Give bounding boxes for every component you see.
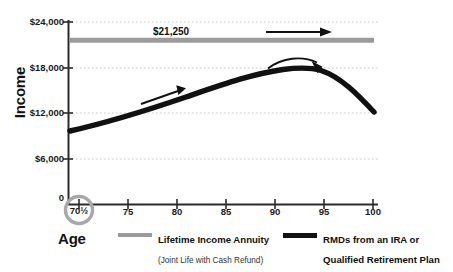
y-tick-label-6000: $6,000 [35, 153, 64, 164]
x-tick-label-100: 100 [357, 206, 389, 217]
x-tick-label-85: 85 [210, 206, 242, 217]
y-tick-label-18000: $18,000 [30, 62, 64, 73]
x-tick-label-70-half: 70½ [63, 205, 95, 216]
x-tick-label-95: 95 [308, 206, 340, 217]
y-tick-label-12000: $12,000 [30, 107, 64, 118]
legend-label-annuity-subtitle: (Joint Life with Cash Refund) [158, 256, 263, 265]
legend-label-rmds-line1: RMDs from an IRA or [323, 234, 419, 245]
x-tick-label-75: 75 [112, 206, 144, 217]
y-tick-label-0: 0 [59, 192, 64, 203]
annuity-value-label: $21,250 [153, 26, 189, 37]
legend-label-annuity-title: Lifetime Income Annuity [158, 234, 269, 245]
legend-label-annuity: Lifetime Income Annuity (Joint Life with… [158, 228, 269, 267]
legend-item-rmds[interactable]: RMDs from an IRA or Qualified Retirement… [283, 228, 440, 267]
annuity-trend-arrow-icon [266, 28, 332, 37]
x-axis-title: Age [58, 230, 86, 247]
legend-swatch-rmds-icon [283, 233, 317, 238]
x-tick-label-80: 80 [161, 206, 193, 217]
retirement-income-chart: Income $24,000 $18,000 $12,000 $6,000 0 … [0, 0, 453, 272]
legend-swatch-annuity-icon [118, 233, 152, 237]
legend-label-rmds-line2: Qualified Retirement Plan [323, 254, 440, 265]
series-line-rmds [70, 68, 374, 131]
legend-item-annuity[interactable]: Lifetime Income Annuity (Joint Life with… [118, 228, 269, 267]
x-tick-label-90: 90 [259, 206, 291, 217]
legend-label-rmds: RMDs from an IRA or Qualified Retirement… [323, 228, 440, 267]
y-axis-title: Income [11, 55, 28, 131]
chart-legend: Lifetime Income Annuity (Joint Life with… [118, 228, 453, 267]
y-tick-label-24000: $24,000 [30, 16, 64, 27]
